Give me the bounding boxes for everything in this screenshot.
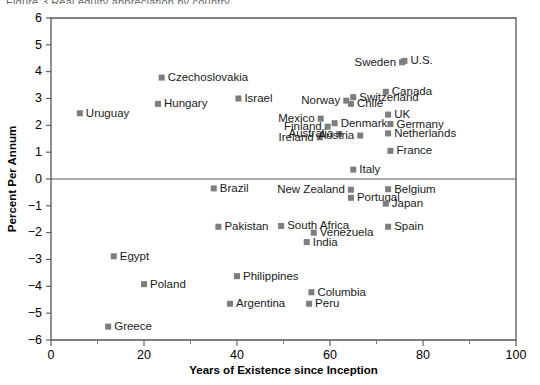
data-point-label: Czechoslovakia	[168, 71, 249, 83]
y-axis-title: Percent Per Annum	[6, 126, 18, 232]
data-point-label: Hungary	[164, 97, 208, 109]
data-point-label: Italy	[359, 163, 380, 175]
data-point-marker[interactable]	[211, 185, 217, 191]
data-points-group: UruguayHungaryCzechoslovakiaIsraelMexico…	[77, 54, 457, 332]
data-point-marker[interactable]	[348, 187, 354, 193]
data-point-marker[interactable]	[77, 110, 83, 116]
data-point-label: Israel	[244, 92, 272, 104]
data-point[interactable]: Czechoslovakia	[159, 71, 249, 83]
x-axis-tick-label: 40	[230, 348, 244, 362]
data-point-label: Belgium	[394, 183, 436, 195]
data-point-marker[interactable]	[348, 101, 354, 107]
data-point-label: Peru	[315, 297, 339, 309]
data-point-marker[interactable]	[308, 289, 314, 295]
data-point[interactable]: Greece	[105, 320, 152, 332]
data-point-marker[interactable]	[350, 94, 356, 100]
data-point[interactable]: Uruguay	[77, 107, 130, 119]
x-axis-tick-label: 100	[506, 348, 527, 362]
data-point-marker[interactable]	[235, 96, 241, 102]
data-point-marker[interactable]	[350, 167, 356, 173]
data-point[interactable]: India	[304, 236, 339, 248]
data-point-label: Spain	[394, 220, 423, 232]
data-point-marker[interactable]	[306, 301, 312, 307]
data-point-marker[interactable]	[155, 101, 161, 107]
data-point[interactable]: Sweden	[355, 56, 406, 68]
y-axis-tick-label: 0	[35, 172, 42, 186]
data-point-marker[interactable]	[383, 201, 389, 207]
y-axis-tick-label: −1	[28, 199, 42, 213]
y-axis-tick-label: 1	[35, 145, 42, 159]
data-point-marker[interactable]	[357, 133, 363, 139]
data-point[interactable]: Italy	[350, 163, 380, 175]
data-point-marker[interactable]	[387, 121, 393, 127]
data-point-label: Austria	[318, 129, 354, 141]
data-point[interactable]: Hungary	[155, 97, 208, 109]
data-point-marker[interactable]	[141, 281, 147, 287]
data-point[interactable]: Columbia	[308, 286, 366, 298]
data-point-label: Sweden	[355, 56, 397, 68]
data-point-label: Netherlands	[394, 127, 456, 139]
data-point-label: U.S.	[410, 54, 432, 66]
y-axis-tick-label: 4	[35, 64, 42, 78]
data-point-label: France	[396, 144, 432, 156]
data-point-label: Japan	[392, 197, 423, 209]
data-point-label: Egypt	[120, 250, 150, 262]
x-axis-tick-label: 60	[323, 348, 337, 362]
data-point-marker[interactable]	[278, 223, 284, 229]
data-point-marker[interactable]	[304, 239, 310, 245]
x-axis-tick-label: 80	[416, 348, 430, 362]
x-axis-tick-label: 20	[137, 348, 151, 362]
data-point-label: Canada	[392, 85, 433, 97]
data-point[interactable]: France	[387, 144, 432, 156]
data-point-label: Greece	[114, 320, 152, 332]
data-point-marker[interactable]	[387, 148, 393, 154]
data-point-marker[interactable]	[385, 130, 391, 136]
data-point[interactable]: Austria	[318, 129, 363, 141]
data-point-marker[interactable]	[234, 273, 240, 279]
data-point[interactable]: Israel	[235, 92, 272, 104]
data-point[interactable]: Spain	[385, 220, 423, 232]
data-point-marker[interactable]	[385, 186, 391, 192]
data-point-label: Poland	[150, 278, 186, 290]
data-point-marker[interactable]	[215, 224, 221, 230]
data-point[interactable]: Argentina	[227, 297, 286, 309]
data-point-marker[interactable]	[111, 253, 117, 259]
data-point[interactable]: Poland	[141, 278, 186, 290]
data-point[interactable]: Netherlands	[385, 127, 456, 139]
data-point[interactable]: Norway	[301, 94, 349, 106]
data-point-marker[interactable]	[159, 75, 165, 81]
data-point-marker[interactable]	[227, 301, 233, 307]
y-axis-tick-label: 2	[35, 118, 42, 132]
y-axis-tick-label: 6	[35, 11, 42, 25]
y-axis-tick-label: −2	[28, 225, 42, 239]
y-axis-tick-label: 5	[35, 38, 42, 52]
data-point[interactable]: Egypt	[111, 250, 150, 262]
y-axis-tick-label: −4	[28, 279, 42, 293]
data-point-marker[interactable]	[332, 120, 338, 126]
data-point-label: Uruguay	[86, 107, 130, 119]
data-point[interactable]: Brazil	[211, 182, 249, 194]
data-point-label: India	[313, 236, 339, 248]
y-axis-tick-label: −6	[28, 333, 42, 347]
data-point[interactable]: New Zealand	[277, 183, 354, 195]
data-point-label: Pakistan	[224, 220, 268, 232]
data-point-marker[interactable]	[105, 324, 111, 330]
data-point-marker[interactable]	[348, 195, 354, 201]
data-point[interactable]: Peru	[306, 297, 339, 309]
axis-titles-group: Years of Existence since InceptionPercen…	[6, 126, 378, 376]
data-point-label: Norway	[301, 94, 340, 106]
data-point-label: Denmark	[341, 117, 388, 129]
data-point-marker[interactable]	[383, 89, 389, 95]
y-axis-tick-label: −3	[28, 252, 42, 266]
data-point-marker[interactable]	[385, 224, 391, 230]
data-point[interactable]: Pakistan	[215, 220, 268, 232]
scatter-chart: Figure 3 Real equity appreciation by cou…	[0, 0, 540, 385]
data-point[interactable]: Denmark	[332, 117, 388, 129]
x-axis-title: Years of Existence since Inception	[189, 364, 378, 376]
data-point[interactable]: Philippines	[234, 270, 299, 282]
data-point-label: Philippines	[243, 270, 299, 282]
data-point-marker[interactable]	[401, 58, 407, 64]
plot-area: 6543210−1−2−3−4−5−6020406080100 UruguayH…	[0, 0, 540, 385]
data-point-label: Columbia	[317, 286, 366, 298]
data-point[interactable]: U.S.	[401, 54, 432, 66]
